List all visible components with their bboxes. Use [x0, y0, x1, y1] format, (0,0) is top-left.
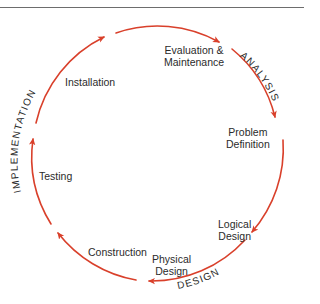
stage-label-line: Physical — [152, 253, 191, 265]
stage-label-line: Logical — [218, 218, 251, 230]
stage-label-line: Testing — [39, 170, 72, 182]
stage-label-line: Definition — [226, 138, 270, 150]
stage-testing: Testing — [39, 170, 72, 182]
stage-label-line: Design — [152, 265, 191, 277]
stage-label-line: Maintenance — [164, 56, 224, 68]
stage-label-line: Installation — [65, 76, 115, 88]
stage-label-line: Problem — [226, 126, 270, 138]
stage-evaluation-maintenance: Evaluation & Maintenance — [164, 44, 224, 68]
stage-label-line: Construction — [88, 246, 147, 258]
stage-installation: Installation — [65, 76, 115, 88]
stage-physical-design: Physical Design — [152, 253, 191, 277]
phase-label-analysis: ANALYSIS — [238, 50, 281, 104]
stage-construction: Construction — [88, 246, 147, 258]
arrow-to-logical-design — [252, 140, 283, 232]
arrow-to-evaluation — [116, 26, 219, 42]
stage-label-line: Design — [218, 230, 251, 242]
stage-logical-design: Logical Design — [218, 218, 251, 242]
stage-label-line: Evaluation & — [164, 44, 224, 56]
stage-problem-definition: Problem Definition — [226, 126, 270, 150]
